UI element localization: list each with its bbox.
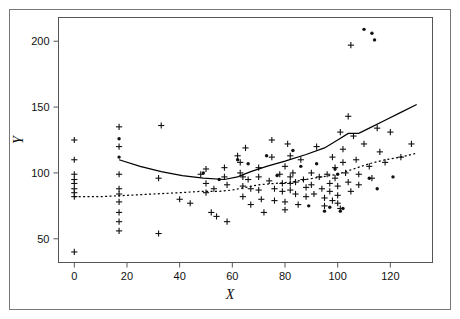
chart-canvas: 50100150200 020406080100120 X Y: [0, 0, 460, 319]
data-point-dot: [375, 187, 378, 190]
data-point-dot: [328, 205, 331, 208]
x-tick-label: 120: [381, 270, 399, 282]
x-tick-label: 20: [121, 270, 133, 282]
data-point-dot: [246, 162, 249, 165]
data-point-dot: [265, 154, 268, 157]
y-tick-label: 100: [31, 167, 49, 179]
data-point-dot: [362, 28, 365, 31]
y-tick-label: 50: [37, 233, 49, 245]
data-point-dot: [307, 204, 310, 207]
data-point-dot: [315, 162, 318, 165]
data-point-dot: [341, 207, 344, 210]
data-point-dot: [117, 137, 120, 140]
x-axis-title: X: [225, 287, 235, 302]
data-point-dot: [368, 176, 371, 179]
data-point-dot: [323, 209, 326, 212]
x-tick-label: 40: [174, 270, 186, 282]
x-tick-label: 100: [329, 270, 347, 282]
data-point-dot: [236, 158, 239, 161]
x-tick-label: 0: [71, 270, 77, 282]
data-point-dot: [275, 174, 278, 177]
data-point-dot: [391, 175, 394, 178]
data-point-dot: [299, 165, 302, 168]
data-point-dot: [370, 32, 373, 35]
x-tick-label: 60: [226, 270, 238, 282]
data-point-dot: [373, 38, 376, 41]
data-point-dot: [339, 209, 342, 212]
y-tick-label: 150: [31, 101, 49, 113]
data-point-dot: [202, 171, 205, 174]
y-tick-label: 200: [31, 35, 49, 47]
data-point-dot: [117, 155, 120, 158]
x-tick-label: 80: [279, 270, 291, 282]
scatter-plot-figure: 50100150200 020406080100120 X Y: [0, 0, 460, 319]
data-point-dot: [333, 167, 336, 170]
data-point-dot: [291, 149, 294, 152]
